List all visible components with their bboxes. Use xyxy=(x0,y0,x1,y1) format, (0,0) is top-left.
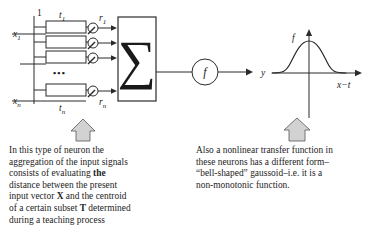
summation-symbol: ∑ xyxy=(118,30,157,90)
label-output-y: y xyxy=(260,68,266,78)
caption-right-line-2: these neurons has a different form– xyxy=(196,157,380,169)
label-template-tn: tn xyxy=(59,103,66,116)
label-distance-rn: rn xyxy=(99,97,107,110)
label-template-tn-sub: n xyxy=(62,108,66,116)
label-distance-r1: r1 xyxy=(99,13,106,26)
label-distance-rn-sub: n xyxy=(103,102,107,110)
label-input-x1-sub: 1 xyxy=(17,34,21,42)
label-input-xn-sub: n xyxy=(17,101,21,109)
gaussoid-plot: f x−t xyxy=(272,29,362,118)
template-box-n xyxy=(46,84,86,96)
row3-arrowhead xyxy=(111,55,117,61)
caption-left-line-3: consists of evaluating the xyxy=(9,168,191,180)
callout-arrow-left-icon xyxy=(71,119,95,141)
caption-right-line-1: Also a nonlinear transfer function in xyxy=(196,145,380,157)
callout-arrow-right-icon xyxy=(284,118,310,141)
plot-x-axis-arrowhead xyxy=(355,70,362,76)
label-template-t1-sub: 1 xyxy=(62,15,66,23)
caption-area: In this type of neuron the aggregation o… xyxy=(0,142,381,239)
switch-node-2 xyxy=(88,38,98,48)
caption-right-line-3: “bell-shaped” gaussoid–i.e. it is a xyxy=(196,168,380,180)
figure-page: 1 ••• xyxy=(0,0,381,239)
plot-x-axis-label: x−t xyxy=(336,80,351,90)
row2-arrowhead xyxy=(111,40,117,46)
caption-left-line-7: during a teaching process xyxy=(9,215,191,227)
switch-node-3 xyxy=(88,53,98,63)
caption-left-line-2: aggregation of the input signals xyxy=(9,157,191,169)
caption-left-line-5: input vector X and the centroid xyxy=(9,191,191,203)
row1-arrowhead xyxy=(111,25,117,31)
neuron-block-diagram: 1 ••• xyxy=(0,0,381,145)
label-distance-r1-sub: 1 xyxy=(103,18,107,26)
caption-left-line-3-text: consists of evaluating xyxy=(9,168,93,178)
caption-right-line-4: non-monotonic function. xyxy=(196,180,380,192)
caption-left-line-1: In this type of neuron the xyxy=(9,145,191,157)
label-input-x1: x1 xyxy=(12,29,21,42)
output-arrowhead xyxy=(246,69,253,76)
label-input-xn: xn xyxy=(12,96,21,109)
rown-arrowhead xyxy=(111,88,117,94)
caption-left: In this type of neuron the aggregation o… xyxy=(9,145,191,226)
plot-y-axis-arrowhead xyxy=(306,29,312,36)
switch-node-1 xyxy=(88,23,98,33)
plot-y-axis-label: f xyxy=(292,33,296,43)
template-box-3 xyxy=(46,51,86,63)
switch-node-n xyxy=(88,86,98,96)
caption-left-line-3-bold: the xyxy=(93,168,106,178)
caption-left-line-5-b: and the centroid xyxy=(63,191,126,201)
caption-left-line-6-a: of a certain subset xyxy=(9,203,80,213)
template-box-2 xyxy=(46,36,86,48)
vertical-ellipsis-label: ••• xyxy=(53,68,66,78)
label-top-index: 1 xyxy=(37,8,42,18)
caption-left-line-4: distance between the present xyxy=(9,180,191,192)
caption-left-line-5-a: input vector xyxy=(9,191,57,201)
caption-left-line-6: of a certain subset T determined xyxy=(9,203,191,215)
caption-left-line-6-b: determined xyxy=(86,203,131,213)
caption-right: Also a nonlinear transfer function in th… xyxy=(196,145,380,191)
template-box-1 xyxy=(46,21,86,33)
